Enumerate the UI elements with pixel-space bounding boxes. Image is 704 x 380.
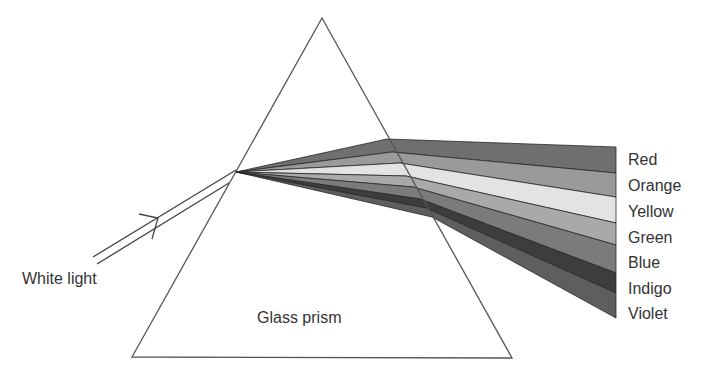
label-violet: Violet — [628, 306, 668, 322]
label-indigo: Indigo — [628, 281, 672, 297]
white-light-label: White light — [22, 271, 97, 287]
label-orange: Orange — [628, 178, 681, 194]
label-red: Red — [628, 152, 657, 168]
white-light-ray — [93, 170, 236, 264]
arrow-icon — [139, 214, 158, 239]
label-yellow: Yellow — [628, 204, 674, 220]
spectrum-bands — [236, 139, 616, 318]
label-blue: Blue — [628, 255, 660, 271]
prism-diagram — [0, 0, 704, 380]
glass-prism-label: Glass prism — [257, 310, 341, 326]
label-green: Green — [628, 230, 672, 246]
